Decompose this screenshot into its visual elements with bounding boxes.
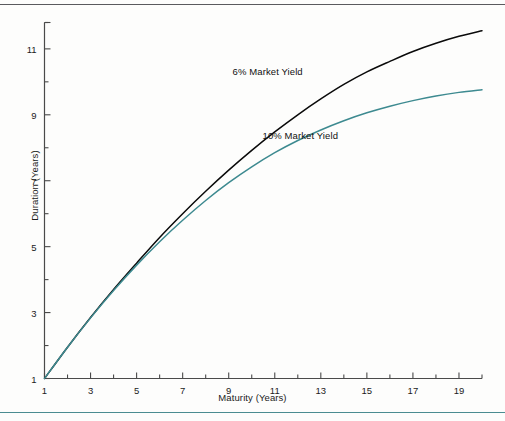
series-label-10-percent: 10% Market Yield <box>263 130 339 141</box>
y-tick-label: 5 <box>11 241 37 252</box>
x-tick-label: 13 <box>316 385 327 396</box>
chart-figure: Duration (Years) Maturity (Years) 6% Mar… <box>0 0 505 421</box>
x-tick-label: 5 <box>134 385 139 396</box>
x-tick-label: 15 <box>362 385 373 396</box>
x-tick-label: 7 <box>180 385 185 396</box>
y-tick-label: 9 <box>11 109 37 120</box>
y-tick-label: 11 <box>11 43 37 54</box>
series-label-6-percent: 6% Market Yield <box>233 66 303 77</box>
y-tick-label: 7 <box>11 175 37 186</box>
x-tick-label: 17 <box>408 385 419 396</box>
x-tick-label: 9 <box>226 385 231 396</box>
duration-vs-maturity-plot <box>0 0 505 421</box>
series-line-6-percent <box>45 31 483 379</box>
x-axis-title: Maturity (Years) <box>0 392 505 403</box>
x-tick-label: 19 <box>454 385 465 396</box>
y-tick-label: 3 <box>11 307 37 318</box>
x-tick-label: 3 <box>88 385 93 396</box>
x-tick-label: 11 <box>270 385 280 396</box>
y-tick-label: 1 <box>11 373 37 384</box>
x-tick-label: 1 <box>42 385 47 396</box>
